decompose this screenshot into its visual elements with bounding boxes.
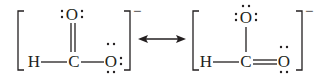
carbon-1: C	[68, 52, 79, 71]
right-bracket-2	[296, 11, 302, 70]
structure-2: − O H C O	[193, 3, 313, 73]
charge-1: −	[133, 3, 141, 19]
resonance-diagram: − O H C O − O H C O	[0, 0, 329, 78]
oxygen-right-1: O	[105, 52, 117, 71]
structure-1: − O H C O	[18, 3, 141, 73]
hydrogen-2: H	[200, 52, 212, 71]
oxygen-top-2: O	[240, 8, 252, 27]
charge-2: −	[305, 3, 313, 19]
carbon-2: C	[240, 52, 251, 71]
left-bracket-1	[18, 11, 24, 70]
hydrogen-1: H	[28, 52, 40, 71]
resonance-arrow	[138, 35, 186, 43]
oxygen-right-2: O	[278, 52, 290, 71]
right-bracket-1	[124, 11, 130, 70]
oxygen-top-1: O	[66, 5, 78, 24]
left-bracket-2	[193, 11, 199, 70]
